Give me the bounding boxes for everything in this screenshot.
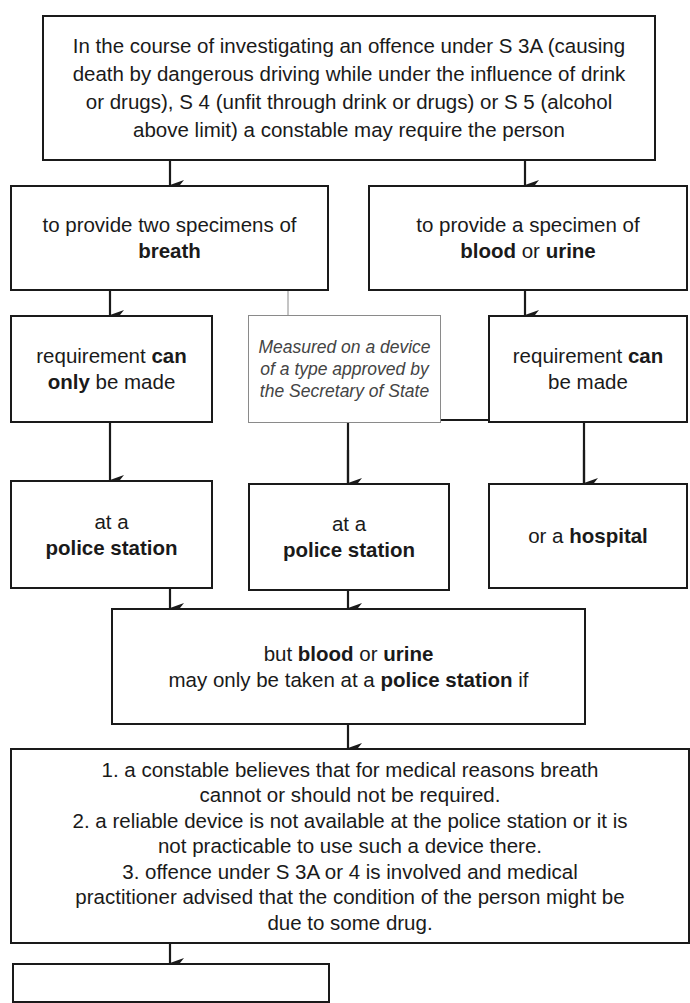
- req-can-post: be made: [513, 369, 663, 395]
- breath-line1: to provide two specimens of: [42, 212, 296, 238]
- urine-bold: urine: [546, 239, 596, 262]
- breath-bold: breath: [42, 238, 296, 264]
- but-line2-post: if: [513, 668, 529, 691]
- police-left-line1: at a: [45, 509, 177, 535]
- condition-1: 1. a constable believes that for medical…: [72, 757, 628, 808]
- hospital-bold: hospital: [569, 524, 648, 547]
- police-mid-bold: police station: [283, 537, 415, 563]
- blood-bold: blood: [460, 239, 516, 262]
- root-condition-box: In the course of investigating an offenc…: [42, 15, 656, 161]
- requirement-only-box: requirement can only be made: [10, 315, 213, 423]
- conditions-box: 1. a constable believes that for medical…: [10, 748, 690, 944]
- condition-2: 2. a reliable device is not available at…: [72, 808, 628, 859]
- police-station-left-box: at a police station: [10, 480, 213, 589]
- breath-specimen-box: to provide two specimens of breath: [10, 185, 329, 291]
- blood-urine-line1: to provide a specimen of: [416, 212, 639, 238]
- approved-device-note: Measured on a device of a type approved …: [248, 315, 441, 423]
- req-only-pre: requirement: [36, 344, 151, 367]
- req-only-only: only: [48, 370, 90, 393]
- hospital-box: or a hospital: [488, 483, 688, 589]
- police-left-bold: police station: [45, 535, 177, 561]
- but-blood: blood: [298, 642, 354, 665]
- final-box-cut-off: [12, 963, 330, 1003]
- but-urine: urine: [383, 642, 433, 665]
- police-mid-line1: at a: [283, 511, 415, 537]
- but-line2-pre: may only be taken at a: [168, 668, 380, 691]
- req-only-post: be made: [90, 370, 175, 393]
- note-text: Measured on a device of a type approved …: [257, 336, 432, 402]
- requirement-can-box: requirement can be made: [488, 315, 688, 423]
- root-text: In the course of investigating an offenc…: [62, 32, 636, 144]
- condition-3: 3. offence under S 3A or 4 is involved a…: [72, 859, 628, 936]
- blood-urine-specimen-box: to provide a specimen of blood or urine: [368, 185, 688, 291]
- hospital-pre: or a: [528, 524, 569, 547]
- but-or: or: [354, 642, 384, 665]
- but-pre: but: [264, 642, 298, 665]
- police-station-mid-box: at a police station: [248, 483, 450, 591]
- or-text: or: [516, 239, 546, 262]
- blood-urine-restriction-box: but blood or urine may only be taken at …: [111, 608, 586, 725]
- but-police-station: police station: [380, 668, 512, 691]
- req-can-can: can: [628, 344, 663, 367]
- req-can-pre: requirement: [513, 344, 628, 367]
- req-only-can: can: [151, 344, 186, 367]
